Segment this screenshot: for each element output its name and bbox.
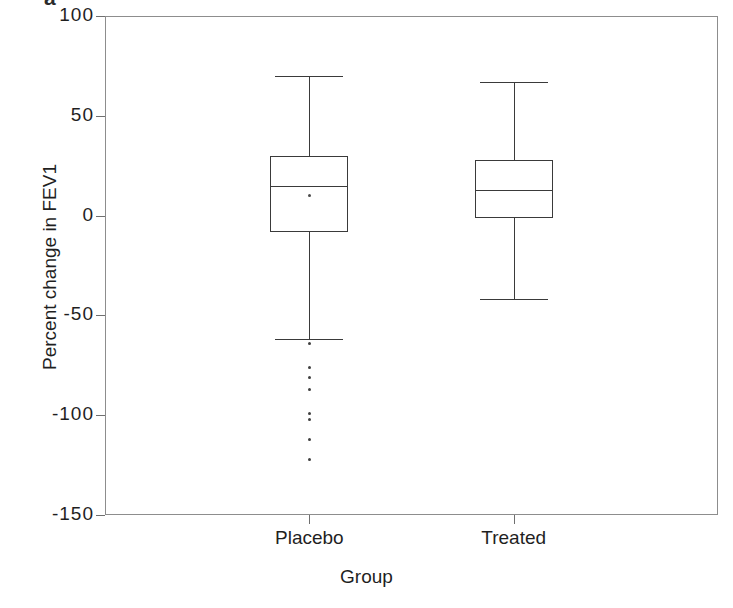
iqr-box: [475, 160, 553, 218]
median-line: [475, 190, 553, 191]
boxplot-treated: [0, 0, 733, 608]
whisker-cap-lower: [480, 299, 548, 300]
whisker-upper: [514, 82, 515, 160]
y-axis-title: Percent change in FEV1: [39, 67, 61, 467]
x-axis-title: Group: [0, 566, 733, 588]
whisker-cap-upper: [480, 82, 548, 83]
whisker-lower: [514, 218, 515, 300]
boxplot-figure: a 100500-50-100-150 PlaceboTreated Group…: [0, 0, 733, 608]
